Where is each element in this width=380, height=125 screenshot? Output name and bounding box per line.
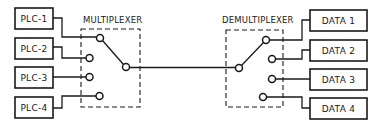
plc-4-contact (96, 93, 103, 100)
demultiplexer-common-contact (236, 65, 243, 72)
plc-4-label: PLC-4 (20, 103, 47, 113)
plc-3-label: PLC-3 (20, 73, 47, 83)
multiplexer-common-contact (123, 64, 130, 71)
data-1-contact (263, 37, 270, 44)
multiplexer-switch-arm (103, 41, 124, 65)
data-2-wire (276, 50, 311, 59)
output-data-4: DATA 4 (260, 94, 368, 120)
demultiplexer-label: DEMULTIPLEXER (222, 15, 294, 25)
data-4-label: DATA 4 (322, 104, 356, 114)
input-plc-2: PLC-2 (15, 38, 93, 62)
plc-2-label: PLC-2 (20, 44, 47, 54)
input-plc-4: PLC-4 (15, 93, 103, 119)
plc-1-label: PLC-1 (20, 14, 47, 24)
output-data-2: DATA 2 (269, 40, 368, 63)
plc-4-wire (53, 96, 96, 108)
data-2-label: DATA 2 (322, 46, 356, 56)
plc-2-contact (86, 55, 93, 62)
plc-3-contact (86, 74, 93, 81)
demultiplexer-boundary (226, 30, 283, 107)
data-4-wire (267, 97, 311, 108)
data-3-contact (269, 76, 276, 83)
multiplexer: MULTIPLEXER PLC-1 PLC-2 PLC-3 PLC-4 (15, 8, 142, 118)
data-1-label: DATA 1 (322, 16, 356, 26)
data-2-contact (269, 56, 276, 63)
plc-1-contact (97, 35, 104, 42)
mux-demux-diagram: MULTIPLEXER PLC-1 PLC-2 PLC-3 PLC-4 (0, 0, 380, 125)
data-3-label: DATA 3 (322, 75, 356, 85)
demultiplexer: DEMULTIPLEXER DATA 1 DATA 2 DATA 3 (222, 10, 367, 119)
data-4-contact (260, 94, 267, 101)
demultiplexer-switch-arm (242, 43, 264, 66)
multiplexer-label: MULTIPLEXER (83, 15, 142, 25)
